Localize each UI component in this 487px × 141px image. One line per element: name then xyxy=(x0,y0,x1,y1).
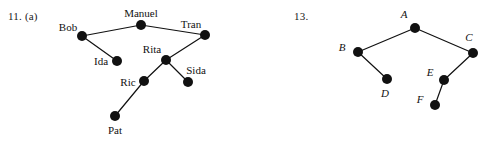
graph-vertex[interactable] xyxy=(410,23,420,33)
graph-edge xyxy=(415,28,473,53)
graph-vertex[interactable] xyxy=(136,20,146,30)
graph-edge xyxy=(82,25,141,36)
figure-13-graph xyxy=(244,0,487,141)
graph-vertex[interactable] xyxy=(77,31,87,41)
vertex-label-C: C xyxy=(465,32,472,43)
graph-edge xyxy=(358,28,415,52)
vertex-label-bob: Bob xyxy=(59,22,77,33)
vertex-label-B: B xyxy=(339,42,346,53)
graph-vertex[interactable] xyxy=(382,74,392,84)
vertex-label-sida: Sida xyxy=(186,65,206,76)
vertex-label-A: A xyxy=(401,9,408,20)
vertex-label-manuel: Manuel xyxy=(124,8,158,19)
vertex-label-F: F xyxy=(417,94,424,105)
graph-vertex[interactable] xyxy=(468,48,478,58)
graph-vertex[interactable] xyxy=(439,75,449,85)
graph-vertex[interactable] xyxy=(353,47,363,57)
vertex-label-tran: Tran xyxy=(181,19,201,30)
graph-vertex[interactable] xyxy=(161,55,171,65)
graph-vertex[interactable] xyxy=(139,76,149,86)
figure-page: 11. (a) ManuelBobTranIdaRitaSidaRicPat 1… xyxy=(0,0,487,141)
graph-edge xyxy=(358,52,387,79)
vertex-label-ric: Ric xyxy=(120,77,135,88)
figure-13-panel: 13. ABCDEF xyxy=(244,0,487,141)
graph-edge xyxy=(444,53,473,80)
graph-vertex[interactable] xyxy=(112,56,122,66)
graph-edge xyxy=(166,35,205,60)
vertex-label-D: D xyxy=(381,88,389,99)
vertex-label-rita: Rita xyxy=(143,44,161,55)
graph-vertex[interactable] xyxy=(200,30,210,40)
figure-11a-panel: 11. (a) ManuelBobTranIdaRitaSidaRicPat xyxy=(0,0,244,141)
graph-vertex[interactable] xyxy=(110,111,120,121)
vertex-label-E: E xyxy=(427,67,434,78)
page-bottom-rule xyxy=(28,138,458,139)
graph-vertex[interactable] xyxy=(430,100,440,110)
graph-vertex[interactable] xyxy=(183,77,193,87)
vertex-label-ida: Ida xyxy=(94,56,108,67)
figure-11a-graph xyxy=(0,0,244,141)
vertex-label-pat: Pat xyxy=(108,125,122,136)
